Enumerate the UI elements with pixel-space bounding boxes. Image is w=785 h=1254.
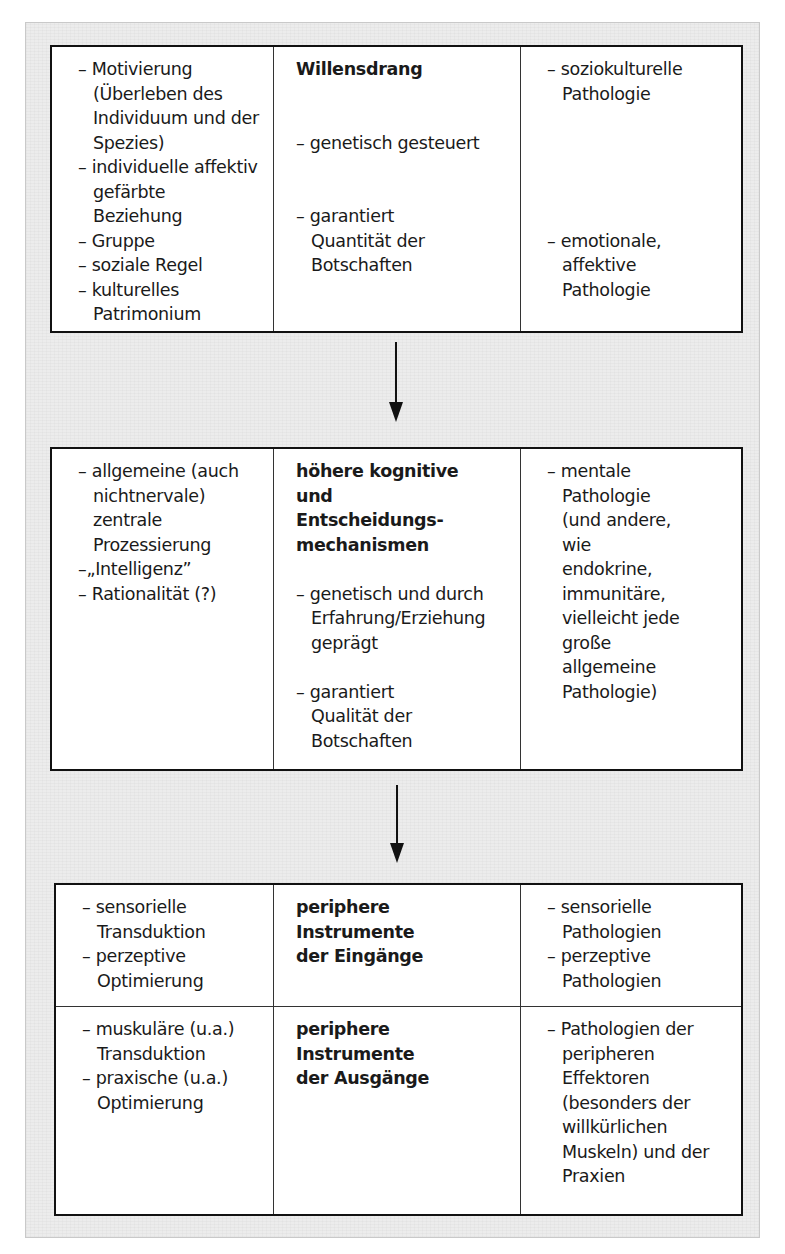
list-item: – genetisch und durch Erfahrung/Erziehun…	[296, 582, 516, 656]
list-item: – genetisch gesteuert	[296, 131, 520, 156]
list-item: – Pathologien der peripheren Effektoren …	[547, 1017, 712, 1189]
outputs-row: – muskuläre (u.a.) Transduktion – praxis…	[56, 1007, 741, 1214]
list-item: – sensorielle Transduktion	[82, 895, 227, 944]
box-title-line: periphere	[296, 895, 520, 920]
arrow-down-icon	[389, 342, 403, 422]
inputs-right-cell: – sensorielle Pathologien – perzeptive P…	[521, 885, 741, 1006]
list-item: – mentale Pathologie (und andere, wie en…	[547, 459, 682, 704]
inputs-row: – sensorielle Transduktion – perzeptive …	[56, 885, 741, 1006]
box-title-line: höhere kognitive	[296, 459, 520, 484]
list-item: – sensorielle Pathologien	[547, 895, 682, 944]
list-item: – soziokulturelle Pathologie	[547, 57, 712, 106]
box-title-line: Instrumente	[296, 920, 520, 945]
box-title-line: der Ausgänge	[296, 1066, 520, 1091]
list-item: – emotionale, affektive Pathologie	[547, 229, 682, 303]
box-willensdrang: – Motivierung (Überleben des Individuum …	[50, 45, 743, 333]
box2-middle-cell: höhere kognitive und Entscheidungs- mech…	[274, 449, 521, 769]
box-title-line: mechanismen	[296, 533, 520, 558]
list-item: – Rationalität (?)	[78, 582, 273, 607]
outputs-left-cell: – muskuläre (u.a.) Transduktion – praxis…	[56, 1007, 274, 1214]
list-item: – individuelle affektiv gefärbte Beziehu…	[78, 155, 258, 229]
box2-right-cell: – mentale Pathologie (und andere, wie en…	[521, 449, 741, 769]
list-item: –„Intelligenz”	[78, 557, 273, 582]
list-item: – muskuläre (u.a.) Transduktion	[82, 1017, 272, 1066]
inputs-middle-cell: periphere Instrumente der Eingänge	[274, 885, 521, 1006]
box1-middle-cell: Willensdrang – genetisch gesteuert – gar…	[274, 47, 521, 331]
box-kognitive-mechanismen: – allgemeine (auch nichtnervale) zentral…	[50, 447, 743, 771]
list-item: – Gruppe	[78, 229, 273, 254]
box-title: Willensdrang	[296, 57, 520, 82]
box-title-line: Entscheidungs-	[296, 508, 520, 533]
box1-left-cell: – Motivierung (Überleben des Individuum …	[52, 47, 274, 331]
outputs-right-cell: – Pathologien der peripheren Effektoren …	[521, 1007, 741, 1214]
box-title-line: der Eingänge	[296, 944, 520, 969]
arrow-down-icon	[390, 785, 404, 865]
outputs-middle-cell: periphere Instrumente der Ausgänge	[274, 1007, 521, 1214]
box-title-line: periphere	[296, 1017, 520, 1042]
list-item: – soziale Regel	[78, 253, 273, 278]
list-item: – perzeptive Optimierung	[82, 944, 227, 993]
list-item: – Motivierung (Überleben des Individuum …	[78, 57, 263, 155]
list-item: – garantiert Quantität der Botschaften	[296, 204, 441, 278]
list-item: – perzeptive Pathologien	[547, 944, 682, 993]
list-item: – garantiert Qualität der Botschaften	[296, 680, 441, 754]
box1-right-cell: – soziokulturelle Pathologie – emotional…	[521, 47, 741, 331]
box-periphere-instrumente: – sensorielle Transduktion – perzeptive …	[54, 883, 743, 1216]
box-title-line: Instrumente	[296, 1042, 520, 1067]
box-title-line: und	[296, 484, 520, 509]
list-item: – kulturelles Patrimonium	[78, 278, 223, 327]
box2-left-cell: – allgemeine (auch nichtnervale) zentral…	[52, 449, 274, 769]
list-item: – allgemeine (auch nichtnervale) zentral…	[78, 459, 273, 557]
list-item: – praxische (u.a.) Optimierung	[82, 1066, 272, 1115]
inputs-left-cell: – sensorielle Transduktion – perzeptive …	[56, 885, 274, 1006]
